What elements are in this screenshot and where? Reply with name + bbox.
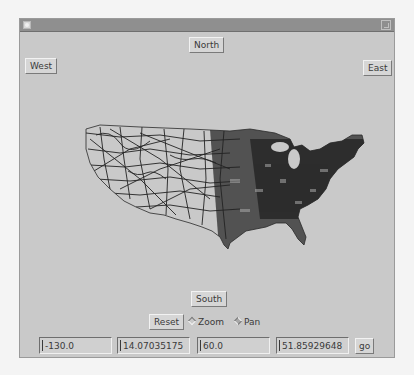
window-menu-icon[interactable] <box>23 21 31 29</box>
text-cursor <box>200 340 201 351</box>
go-button[interactable]: go <box>355 338 374 354</box>
text-cursor <box>279 340 280 351</box>
reset-button[interactable]: Reset <box>149 314 184 330</box>
text-cursor <box>120 340 121 351</box>
map-land <box>80 119 370 261</box>
east-button[interactable]: East <box>363 60 392 76</box>
max-y-field[interactable] <box>276 337 349 354</box>
maximize-icon[interactable] <box>381 20 391 30</box>
south-button[interactable]: South <box>191 291 227 307</box>
radio-unselected-icon <box>188 317 196 325</box>
radio-selected-icon <box>234 317 242 325</box>
west-button[interactable]: West <box>25 58 57 74</box>
min-x-field[interactable] <box>39 337 112 354</box>
map-viewer-window: North West East <box>19 18 395 358</box>
pan-radio[interactable]: Pan <box>234 316 260 328</box>
text-cursor <box>42 340 43 351</box>
north-button[interactable]: North <box>189 37 224 53</box>
us-road-network-map[interactable] <box>80 119 370 261</box>
zoom-radio[interactable]: Zoom <box>188 316 224 328</box>
max-x-field[interactable] <box>197 337 270 354</box>
pan-radio-label: Pan <box>244 317 260 327</box>
zoom-radio-label: Zoom <box>198 317 224 327</box>
window-titlebar[interactable] <box>20 19 394 32</box>
min-y-field[interactable] <box>117 337 190 354</box>
